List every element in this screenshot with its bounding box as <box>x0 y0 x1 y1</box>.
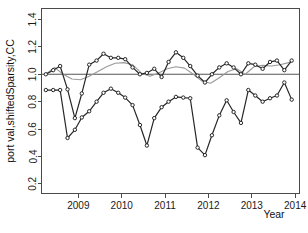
data-point-marker <box>174 51 177 54</box>
data-point-marker <box>189 97 192 100</box>
y-tick-label: 0.2 <box>28 177 39 191</box>
data-point-marker <box>102 91 105 94</box>
y-tick-label: 0.6 <box>28 122 39 136</box>
data-point-marker <box>145 71 148 74</box>
data-point-marker <box>218 114 221 117</box>
data-point-marker <box>283 68 286 71</box>
data-point-marker <box>131 103 134 106</box>
data-point-marker <box>225 99 228 102</box>
data-point-marker <box>160 105 163 108</box>
data-point-marker <box>87 110 90 113</box>
data-point-marker <box>58 64 61 67</box>
data-point-marker <box>290 59 293 62</box>
data-point-marker <box>232 66 235 69</box>
data-point-marker <box>290 98 293 101</box>
data-point-marker <box>210 73 213 76</box>
data-point-marker <box>153 67 156 70</box>
data-point-marker <box>247 88 250 91</box>
data-point-marker <box>58 88 61 91</box>
data-point-marker <box>95 59 98 62</box>
data-point-marker <box>52 68 55 71</box>
data-point-marker <box>66 88 69 91</box>
data-point-marker <box>44 73 47 76</box>
x-tick-label: 2012 <box>197 200 220 211</box>
y-tick-label: 0.8 <box>28 94 39 108</box>
data-point-marker <box>73 116 76 119</box>
data-point-marker <box>80 92 83 95</box>
x-axis-title: Year <box>263 208 285 220</box>
x-tick-label: 2011 <box>154 200 176 211</box>
data-point-marker <box>254 94 257 97</box>
data-point-marker <box>182 96 185 99</box>
data-point-marker <box>275 94 278 97</box>
y-tick-label: 0.4 <box>28 149 39 163</box>
data-point-marker <box>131 66 134 69</box>
data-point-marker <box>102 52 105 55</box>
data-point-marker <box>283 81 286 84</box>
data-point-marker <box>203 81 206 84</box>
data-point-marker <box>145 144 148 147</box>
data-point-marker <box>44 88 47 91</box>
x-tick-label: 2014 <box>284 200 307 211</box>
y-axis-ticks: 0.20.40.60.81.01.21.4 <box>28 12 42 191</box>
data-point-marker <box>80 116 83 119</box>
data-point-marker <box>174 95 177 98</box>
data-point-marker <box>117 56 120 59</box>
data-point-marker <box>196 74 199 77</box>
y-tick-label: 1.4 <box>28 12 39 26</box>
data-point-marker <box>261 100 264 103</box>
chart-screenshot: 0.20.40.60.81.01.21.4 200920102011201220… <box>0 0 308 233</box>
data-point-marker <box>109 56 112 59</box>
data-point-marker <box>239 73 242 76</box>
data-point-marker <box>87 63 90 66</box>
data-point-marker <box>268 97 271 100</box>
line-chart: 0.20.40.60.81.01.21.4 200920102011201220… <box>0 0 308 233</box>
chart-series-group <box>42 51 300 157</box>
data-point-marker <box>247 62 250 65</box>
data-point-marker <box>73 128 76 131</box>
data-point-marker <box>153 116 156 119</box>
data-point-marker <box>254 63 257 66</box>
data-point-marker <box>261 67 264 70</box>
data-point-marker <box>52 88 55 91</box>
x-tick-label: 2013 <box>241 200 264 211</box>
y-tick-label: 1.0 <box>28 67 39 81</box>
data-point-marker <box>167 100 170 103</box>
data-point-marker <box>95 100 98 103</box>
data-point-marker <box>225 62 228 65</box>
data-point-marker <box>189 64 192 67</box>
data-point-marker <box>196 146 199 149</box>
data-point-marker <box>239 121 242 124</box>
y-tick-label: 1.2 <box>28 39 39 53</box>
data-point-marker <box>66 136 69 139</box>
data-point-marker <box>167 60 170 63</box>
y-axis-title: port val,shiftedSparsity,CC <box>4 39 16 163</box>
data-point-marker <box>160 75 163 78</box>
data-point-marker <box>218 66 221 69</box>
data-point-marker <box>117 91 120 94</box>
data-point-marker <box>232 110 235 113</box>
x-tick-label: 2010 <box>111 200 134 211</box>
x-tick-label: 2009 <box>67 200 90 211</box>
data-point-marker <box>203 153 206 156</box>
data-point-marker <box>123 58 126 61</box>
data-point-marker <box>138 73 141 76</box>
data-point-marker <box>138 123 141 126</box>
data-point-marker <box>268 60 271 63</box>
data-point-marker <box>275 59 278 62</box>
data-point-marker <box>123 96 126 99</box>
data-point-marker <box>182 56 185 59</box>
data-point-marker <box>109 87 112 90</box>
data-point-marker <box>210 134 213 137</box>
